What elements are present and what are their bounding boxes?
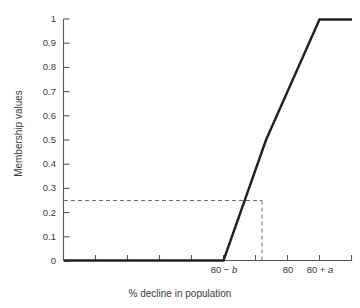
- x-tick-label-80-minus-b: 80 − b: [193, 265, 255, 275]
- y-tick-label-1: 1: [28, 14, 56, 24]
- x-tick-label-80-plus-a-head: 80 +: [307, 264, 328, 275]
- y-tick-label-0_8: 0.8: [28, 62, 56, 72]
- y-tick-label-0: 0: [28, 256, 56, 266]
- membership-curve: [64, 20, 352, 261]
- x-tick-label-80-plus-a-var: a: [328, 264, 333, 275]
- y-tick-label-0_3: 0.3: [28, 183, 56, 193]
- x-tick-label-80-minus-b-var: b: [232, 264, 237, 275]
- y-tick-label-0_7: 0.7: [28, 87, 56, 97]
- y-tick-label-0_2: 0.2: [28, 208, 56, 218]
- y-tick-label-0_4: 0.4: [28, 159, 56, 169]
- y-tick-label-0_9: 0.9: [28, 38, 56, 48]
- dashed-guide-lines: [64, 201, 262, 261]
- x-tick-label-80-minus-b-head: 80 −: [211, 264, 232, 275]
- x-tick-label-80-plus-a: 80 + a: [292, 265, 348, 275]
- y-tick-label-0_1: 0.1: [28, 232, 56, 242]
- y-axis-title: Membership values: [13, 64, 24, 204]
- y-axis-ticks: [64, 19, 70, 261]
- y-tick-label-0_6: 0.6: [28, 111, 56, 121]
- figure-container: 1 0.9 0.8 0.7 0.6 0.5 0.4 0.3 0.2 0.1 0 …: [0, 0, 360, 308]
- y-tick-label-0_5: 0.5: [28, 135, 56, 145]
- x-axis-title: % decline in population: [0, 288, 360, 299]
